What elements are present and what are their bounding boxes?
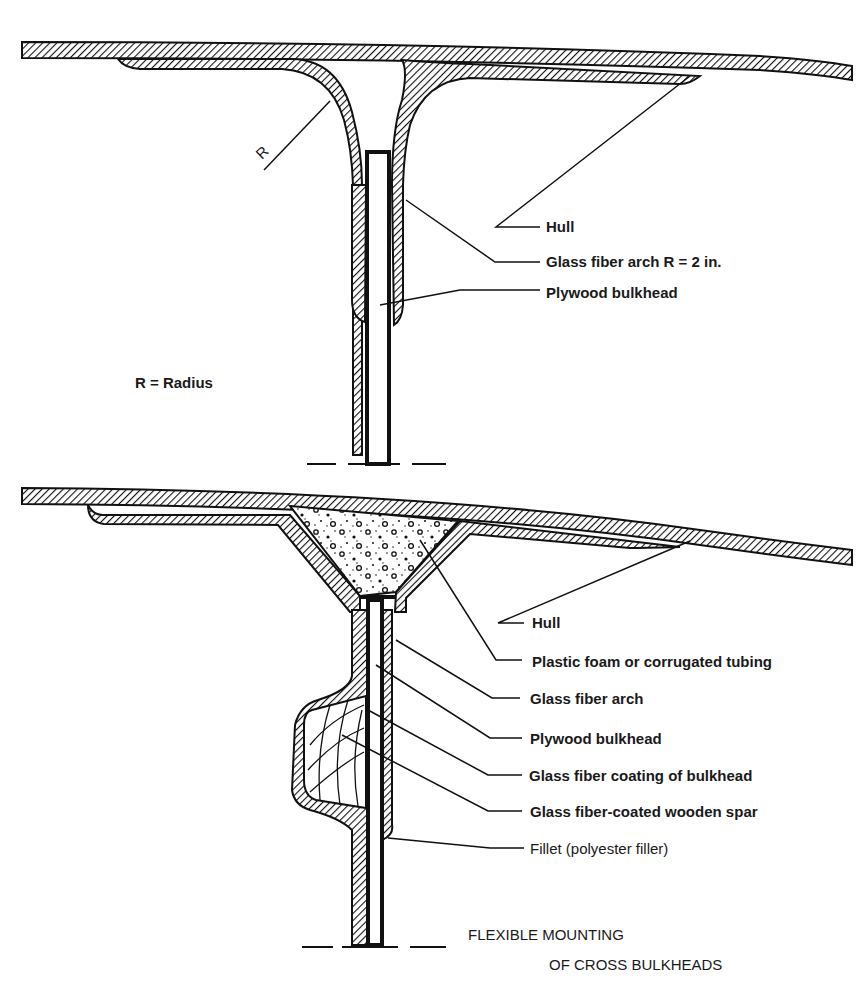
label-arch-top: Glass fiber arch R = 2 in. xyxy=(546,253,722,270)
label-foam: Plastic foam or corrugated tubing xyxy=(532,653,772,670)
label-bulkhead-bottom: Plywood bulkhead xyxy=(530,730,662,747)
plywood-bulkhead-top xyxy=(367,152,389,464)
radius-dimension-line xyxy=(264,101,330,170)
radius-legend: R = Radius xyxy=(135,374,213,391)
label-arch-bottom: Glass fiber arch xyxy=(530,690,643,707)
caption-line-2: OF CROSS BULKHEADS xyxy=(549,956,722,973)
top-figure: R Hull Glass fiber arch R = 2 in. Plywoo… xyxy=(22,42,852,464)
label-fillet: Fillet (polyester filler) xyxy=(530,840,668,857)
radius-marker: R xyxy=(252,142,272,162)
bulkhead-diagram: R Hull Glass fiber arch R = 2 in. Plywoo… xyxy=(0,0,861,1006)
arch-left-flange xyxy=(118,59,362,455)
leaders-top xyxy=(380,76,690,305)
arch-left-leg xyxy=(352,185,366,322)
label-coating: Glass fiber coating of bulkhead xyxy=(529,767,752,784)
label-hull-bottom: Hull xyxy=(532,614,560,631)
caption-line-1: FLEXIBLE MOUNTING xyxy=(468,926,624,943)
label-hull-top: Hull xyxy=(546,218,574,235)
label-spar: Glass fiber-coated wooden spar xyxy=(530,803,758,820)
wooden-spar xyxy=(304,696,366,808)
bottom-figure: Hull Plastic foam or corrugated tubing G… xyxy=(22,488,852,973)
label-bulkhead-top: Plywood bulkhead xyxy=(546,284,678,301)
plywood-bulkhead-bottom xyxy=(368,600,382,945)
